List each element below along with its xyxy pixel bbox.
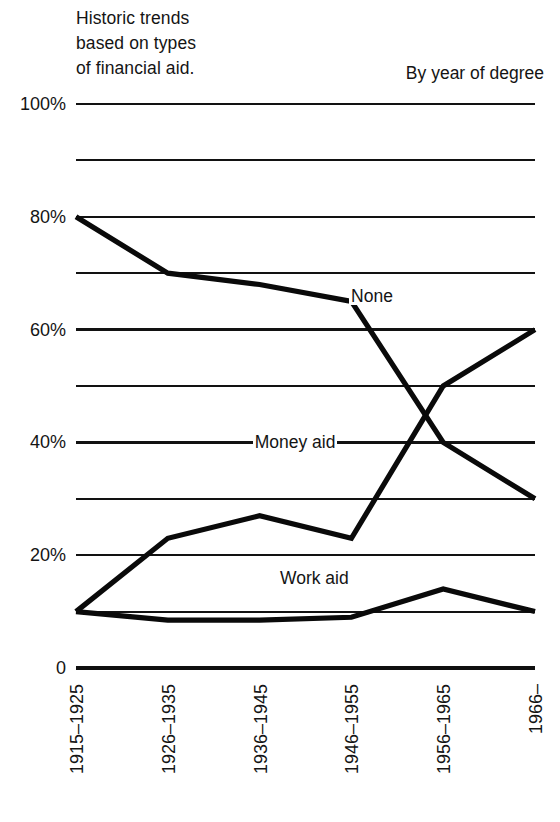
x-tick-label-5: 1966–	[526, 684, 546, 822]
x-tick-label-1: 1926–1935	[159, 684, 179, 822]
x-axis-labels: 1915–19251926–19351936–19451946–19551956…	[0, 0, 560, 822]
x-tick-label-0: 1915–1925	[67, 684, 87, 822]
x-tick-label-3: 1946–1955	[342, 684, 362, 822]
x-tick-label-2: 1936–1945	[251, 684, 271, 822]
x-tick-label-4: 1956–1965	[434, 684, 454, 822]
chart-figure: Historic trends based on types of financ…	[0, 0, 560, 822]
